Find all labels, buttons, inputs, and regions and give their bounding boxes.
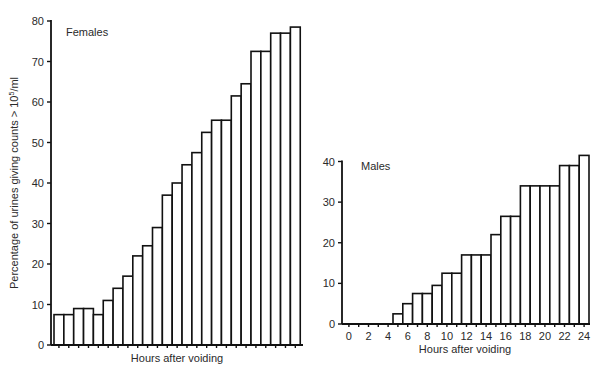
females-bar xyxy=(162,195,172,345)
females-bar xyxy=(290,27,300,345)
females-bar xyxy=(172,183,182,345)
males-x-tick-label: 12 xyxy=(460,330,472,342)
males-title: Males xyxy=(361,160,391,172)
males-chart: 010203040024681012141618202224 xyxy=(323,155,590,342)
males-bar xyxy=(569,166,579,324)
females-y-tick-label: 20 xyxy=(32,258,44,270)
females-y-tick-label: 30 xyxy=(32,218,44,230)
females-y-tick-label: 80 xyxy=(32,15,44,27)
females-y-tick-label: 40 xyxy=(32,177,44,189)
males-bar xyxy=(393,314,403,324)
males-bar xyxy=(481,255,491,324)
chart-canvas: 01020304050607080 0102030400246810121416… xyxy=(0,0,607,377)
females-x-axis-label: Hours after voiding xyxy=(131,352,223,364)
males-bar xyxy=(511,216,521,324)
males-bar xyxy=(491,235,501,324)
females-bar xyxy=(271,33,281,345)
males-y-tick-label: 30 xyxy=(323,196,335,208)
males-x-tick-label: 14 xyxy=(480,330,492,342)
females-bar xyxy=(182,165,192,345)
y-axis-label-unit: /ml xyxy=(8,77,20,92)
females-y-tick-label: 50 xyxy=(32,137,44,149)
males-bar xyxy=(471,255,481,324)
females-bar xyxy=(192,153,202,345)
males-bar xyxy=(579,155,589,324)
females-bar xyxy=(212,120,222,345)
females-bar xyxy=(54,315,64,345)
males-x-tick-label: 24 xyxy=(578,330,590,342)
males-bar xyxy=(422,294,432,324)
males-x-tick-label: 8 xyxy=(424,330,430,342)
females-bar xyxy=(84,309,94,345)
males-x-tick-label: 10 xyxy=(441,330,453,342)
males-bar xyxy=(442,273,452,324)
females-y-tick-label: 60 xyxy=(32,96,44,108)
females-bar xyxy=(231,96,241,345)
males-bar xyxy=(501,216,511,324)
males-x-axis-label: Hours after voiding xyxy=(419,343,511,355)
males-bar xyxy=(403,304,413,324)
males-bar xyxy=(540,186,550,324)
females-y-tick-label: 0 xyxy=(38,339,44,351)
females-bar xyxy=(113,288,123,345)
males-x-tick-label: 6 xyxy=(405,330,411,342)
females-y-tick-label: 70 xyxy=(32,56,44,68)
males-x-tick-label: 4 xyxy=(385,330,391,342)
females-bar xyxy=(261,51,271,345)
males-x-tick-label: 16 xyxy=(500,330,512,342)
males-bar xyxy=(530,186,540,324)
males-y-tick-label: 40 xyxy=(323,156,335,168)
females-bar xyxy=(251,51,261,345)
females-bar xyxy=(64,315,74,345)
females-bar xyxy=(153,228,163,345)
males-y-tick-label: 20 xyxy=(323,237,335,249)
females-bar xyxy=(93,315,103,345)
females-bar xyxy=(143,246,153,345)
females-bar xyxy=(133,256,143,345)
females-y-tick-label: 10 xyxy=(32,299,44,311)
males-x-tick-label: 20 xyxy=(539,330,551,342)
females-bar xyxy=(123,276,133,345)
males-x-tick-label: 22 xyxy=(558,330,570,342)
females-bar xyxy=(281,33,291,345)
females-bar xyxy=(241,84,251,345)
y-axis-label-main: Percentage of urines giving counts > 10 xyxy=(8,96,20,290)
males-bar xyxy=(550,186,560,324)
males-bar xyxy=(462,255,472,324)
females-bar xyxy=(202,132,212,345)
females-bar xyxy=(74,309,84,345)
males-bar xyxy=(520,186,530,324)
females-bar xyxy=(103,300,113,345)
males-y-tick-label: 0 xyxy=(329,318,335,330)
females-bar xyxy=(221,120,231,345)
males-x-tick-label: 0 xyxy=(346,330,352,342)
males-bar xyxy=(560,166,570,324)
males-bar xyxy=(432,285,442,324)
males-x-tick-label: 2 xyxy=(365,330,371,342)
males-bar xyxy=(413,294,423,324)
females-chart: 01020304050607080 xyxy=(32,15,303,351)
y-axis-label: Percentage of urines giving counts > 105… xyxy=(8,77,20,289)
females-title: Females xyxy=(66,26,109,38)
males-x-tick-label: 18 xyxy=(519,330,531,342)
males-y-tick-label: 10 xyxy=(323,277,335,289)
males-bar xyxy=(452,273,462,324)
